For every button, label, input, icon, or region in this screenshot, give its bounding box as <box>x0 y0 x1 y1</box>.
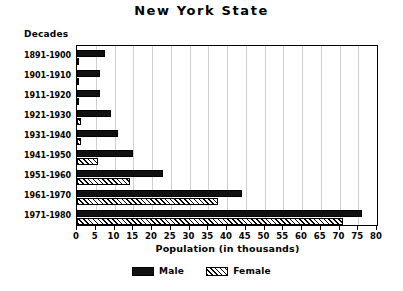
bar-female <box>77 58 79 65</box>
y-tick-label: 1901-1910 <box>24 71 71 80</box>
x-tick <box>76 226 77 230</box>
plot-area <box>76 45 378 226</box>
x-tick <box>357 226 358 230</box>
x-tick <box>376 226 377 230</box>
bar-female <box>77 118 81 125</box>
y-tick-label: 1921-1930 <box>24 111 71 120</box>
chart-container: New York State Decades 1891-19001901-191… <box>0 0 403 291</box>
bar-row <box>77 129 377 146</box>
x-tick <box>189 226 190 230</box>
x-tick <box>245 226 246 230</box>
y-axis-title: Decades <box>24 29 68 39</box>
x-tick <box>264 226 265 230</box>
y-tick-label: 1911-1920 <box>24 91 71 100</box>
x-tick-label: 0 <box>73 231 79 241</box>
bar-female <box>77 198 218 205</box>
legend-swatch-female <box>206 267 228 276</box>
x-tick-label: 20 <box>145 231 157 241</box>
bar-male <box>77 50 105 57</box>
bar-row <box>77 189 377 206</box>
bar-male <box>77 210 362 217</box>
bar-row <box>77 89 377 106</box>
bar-male <box>77 90 100 97</box>
x-tick <box>282 226 283 230</box>
x-tick-label: 80 <box>370 231 382 241</box>
x-tick-label: 70 <box>333 231 345 241</box>
legend-swatch-male <box>132 267 154 276</box>
bar-male <box>77 170 163 177</box>
legend-item: Female <box>206 266 271 276</box>
y-axis-tick-labels: 1891-19001901-19101911-19201921-19301931… <box>0 45 74 226</box>
bar-female <box>77 78 79 85</box>
bar-row <box>77 169 377 186</box>
x-tick-label: 25 <box>164 231 176 241</box>
x-tick-label: 45 <box>239 231 251 241</box>
x-tick <box>207 226 208 230</box>
y-tick-label: 1941-1950 <box>24 151 71 160</box>
legend-item: Male <box>132 266 184 276</box>
x-tick <box>301 226 302 230</box>
bar-female <box>77 138 81 145</box>
x-tick-label: 15 <box>126 231 138 241</box>
bar-male <box>77 70 100 77</box>
chart-legend: MaleFemale <box>0 266 403 276</box>
x-tick-label: 75 <box>351 231 363 241</box>
x-tick <box>151 226 152 230</box>
y-tick-label: 1971-1980 <box>24 211 71 220</box>
bar-female <box>77 158 98 165</box>
bar-male <box>77 110 111 117</box>
legend-label: Male <box>159 266 184 276</box>
y-tick-label: 1961-1970 <box>24 191 71 200</box>
bar-row <box>77 109 377 126</box>
bar-row <box>77 209 377 226</box>
bar-male <box>77 190 242 197</box>
x-tick <box>170 226 171 230</box>
x-tick-label: 50 <box>258 231 270 241</box>
bar-female <box>77 218 343 225</box>
x-tick-label: 10 <box>108 231 120 241</box>
x-tick <box>132 226 133 230</box>
y-tick-label: 1891-1900 <box>24 51 71 60</box>
x-tick <box>339 226 340 230</box>
bar-male <box>77 130 118 137</box>
bar-rows <box>77 46 377 225</box>
x-tick-label: 65 <box>314 231 326 241</box>
y-tick-label: 1931-1940 <box>24 131 71 140</box>
bar-female <box>77 98 79 105</box>
chart-title: New York State <box>0 3 403 18</box>
x-tick-label: 5 <box>92 231 98 241</box>
y-tick-label: 1951-1960 <box>24 171 71 180</box>
x-tick <box>226 226 227 230</box>
x-axis-tick-labels: 05101520253035404550556065707580 <box>0 231 403 243</box>
bar-female <box>77 178 130 185</box>
x-tick <box>114 226 115 230</box>
bar-row <box>77 49 377 66</box>
x-tick <box>320 226 321 230</box>
x-axis-title: Population (in thousands) <box>76 243 379 254</box>
x-tick-label: 35 <box>201 231 213 241</box>
x-tick-label: 40 <box>220 231 232 241</box>
x-tick-label: 30 <box>183 231 195 241</box>
x-tick <box>95 226 96 230</box>
x-tick-label: 55 <box>276 231 288 241</box>
bar-row <box>77 69 377 86</box>
legend-label: Female <box>233 266 271 276</box>
x-tick-label: 60 <box>295 231 307 241</box>
bar-row <box>77 149 377 166</box>
bar-male <box>77 150 133 157</box>
